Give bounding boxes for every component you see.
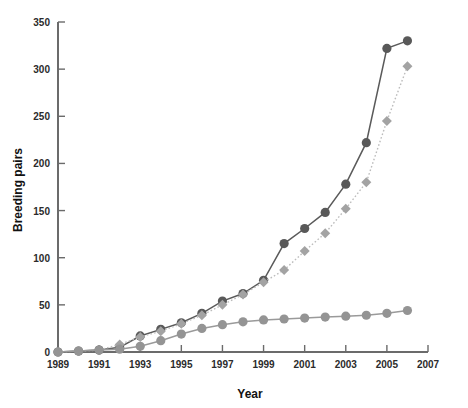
x-axis-title: Year: [237, 387, 263, 401]
data-point-circle: [341, 180, 350, 189]
data-point-circle: [403, 36, 412, 45]
data-point-circle: [321, 313, 330, 322]
data-point-circle: [197, 324, 206, 333]
data-point-circle: [238, 317, 247, 326]
data-point-circle: [177, 329, 186, 338]
data-point-circle: [218, 320, 227, 329]
x-tick-label: 2007: [417, 359, 440, 370]
y-tick-label: 350: [33, 17, 50, 28]
y-tick-label: 0: [44, 347, 50, 358]
y-tick-label: 200: [33, 158, 50, 169]
data-point-circle: [136, 342, 145, 351]
data-point-circle: [74, 346, 83, 355]
data-point-circle: [156, 336, 165, 345]
x-tick-label: 2001: [294, 359, 317, 370]
data-point-circle: [362, 138, 371, 147]
data-point-circle: [300, 313, 309, 322]
y-tick-label: 300: [33, 64, 50, 75]
chart-background: [0, 0, 468, 408]
x-tick-label: 1993: [129, 359, 152, 370]
y-axis-title: Breeding pairs: [11, 148, 25, 232]
x-tick-label: 2005: [376, 359, 399, 370]
data-point-circle: [95, 346, 104, 355]
y-tick-label: 150: [33, 206, 50, 217]
data-point-circle: [362, 311, 371, 320]
x-tick-label: 1997: [211, 359, 234, 370]
data-point-circle: [115, 345, 124, 354]
data-point-circle: [403, 306, 412, 315]
x-tick-label: 1999: [252, 359, 275, 370]
data-point-circle: [382, 44, 391, 53]
data-point-circle: [321, 208, 330, 217]
data-point-circle: [259, 315, 268, 324]
data-point-circle: [341, 312, 350, 321]
data-point-circle: [280, 239, 289, 248]
x-tick-label: 1991: [88, 359, 111, 370]
chart-container: 050100150200250300350 198919911993199519…: [0, 0, 468, 408]
x-tick-label: 1989: [47, 359, 70, 370]
data-point-circle: [280, 314, 289, 323]
breeding-pairs-line-chart: 050100150200250300350 198919911993199519…: [0, 0, 468, 408]
y-tick-label: 50: [39, 300, 51, 311]
data-point-circle: [53, 347, 62, 356]
x-tick-label: 2003: [335, 359, 358, 370]
data-point-circle: [382, 309, 391, 318]
y-tick-label: 250: [33, 111, 50, 122]
x-tick-label: 1995: [170, 359, 193, 370]
data-point-circle: [300, 224, 309, 233]
y-tick-label: 100: [33, 253, 50, 264]
